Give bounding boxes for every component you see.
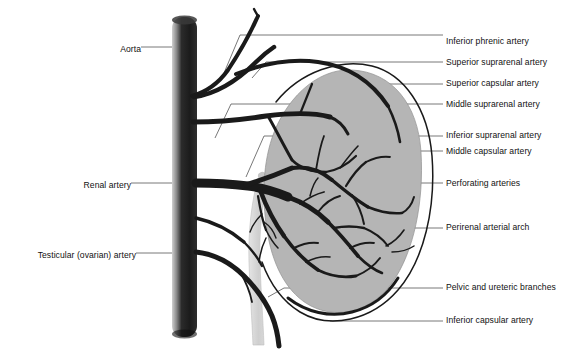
label-aorta: Aorta (0, 44, 141, 54)
label-superior-suprarenal-artery-text: Superior suprarenal artery (446, 57, 547, 67)
label-middle-suprarenal-artery: Middle suprarenal artery (446, 99, 540, 109)
label-superior-capsular-artery-text: Superior capsular artery (446, 78, 539, 88)
anatomical-diagram: Aorta Renal artery Testicular (ovarian) … (0, 0, 580, 349)
label-inferior-phrenic-artery-text: Inferior phrenic artery (446, 36, 529, 46)
label-inferior-suprarenal-artery-text: Inferior suprarenal artery (446, 130, 541, 140)
label-superior-suprarenal-artery: Superior suprarenal artery (446, 57, 547, 67)
label-pelvic-ureteric-branches-text: Pelvic and ureteric branches (446, 282, 556, 292)
aorta-cylinder (172, 16, 197, 339)
label-perirenal-arterial-arch: Perirenal arterial arch (446, 222, 529, 232)
label-testicular-artery: Testicular (ovarian) artery (0, 250, 136, 260)
label-inferior-phrenic-artery: Inferior phrenic artery (446, 36, 529, 46)
label-superior-capsular-artery: Superior capsular artery (446, 78, 539, 88)
label-inferior-suprarenal-artery: Inferior suprarenal artery (446, 130, 541, 140)
label-inferior-capsular-artery-text: Inferior capsular artery (446, 315, 533, 325)
label-renal-artery-text: Renal artery (84, 180, 131, 190)
label-perirenal-arterial-arch-text: Perirenal arterial arch (446, 222, 529, 232)
label-perforating-arteries: Perforating arteries (446, 178, 520, 188)
label-middle-capsular-artery: Middle capsular artery (446, 146, 532, 156)
label-middle-capsular-artery-text: Middle capsular artery (446, 146, 532, 156)
label-testicular-artery-text: Testicular (ovarian) artery (38, 250, 136, 260)
label-pelvic-ureteric-branches: Pelvic and ureteric branches (446, 282, 556, 292)
label-perforating-arteries-text: Perforating arteries (446, 178, 520, 188)
label-aorta-text: Aorta (120, 44, 141, 54)
label-inferior-capsular-artery: Inferior capsular artery (446, 315, 533, 325)
label-middle-suprarenal-artery-text: Middle suprarenal artery (446, 99, 540, 109)
label-renal-artery: Renal artery (0, 180, 131, 190)
